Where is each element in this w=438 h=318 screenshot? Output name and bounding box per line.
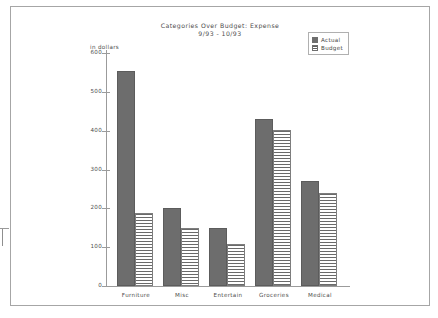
y-axis-tick-label: 300 — [90, 166, 102, 172]
y-axis-tick-mark — [102, 92, 110, 93]
y-axis-tick-mark — [102, 131, 110, 132]
x-axis-line — [106, 286, 350, 287]
bar-budget — [319, 193, 337, 286]
bar-group: Furniture — [117, 53, 155, 286]
chart-sheet: Categories Over Budget: Expense 9/93 - 1… — [10, 6, 430, 306]
legend-label-actual: Actual — [321, 37, 340, 43]
bar-actual — [163, 208, 181, 286]
y-axis-tick-mark — [102, 208, 110, 209]
chart-title-block: Categories Over Budget: Expense 9/93 - 1… — [11, 22, 429, 38]
bar-budget — [273, 130, 291, 286]
bar-group: Groceries — [255, 53, 293, 286]
chart-title: Categories Over Budget: Expense — [11, 22, 429, 30]
y-axis-tick-mark — [102, 53, 110, 54]
x-axis-tick-label: Misc — [175, 292, 189, 298]
legend-label-budget: Budget — [321, 45, 343, 51]
page-edge-mark — [0, 228, 9, 246]
y-axis-tick-label: 200 — [90, 204, 102, 210]
legend-swatch-actual-icon — [312, 37, 318, 43]
y-axis-tick-mark — [102, 247, 110, 248]
bar-group: Entertain — [209, 53, 247, 286]
bar-actual — [255, 119, 273, 286]
bar-group: Medical — [301, 53, 339, 286]
chart-legend: Actual Budget — [308, 32, 349, 55]
chart-subtitle: 9/93 - 10/93 — [11, 30, 429, 38]
bar-budget — [227, 244, 245, 286]
x-axis-tick-label: Entertain — [214, 292, 243, 298]
bar-group-bars — [163, 53, 199, 286]
bar-group-bars — [301, 53, 337, 286]
x-axis-tick-label: Groceries — [259, 292, 289, 298]
bar-actual — [209, 228, 227, 286]
y-axis-tick-label: 400 — [90, 127, 102, 133]
legend-item-actual: Actual — [312, 36, 343, 43]
bar-budget — [181, 228, 199, 286]
x-axis-tick-label: Medical — [308, 292, 332, 298]
x-axis-tick-label: Furniture — [122, 292, 150, 298]
bar-group: Misc — [163, 53, 201, 286]
y-axis-tick-label: 0 — [98, 282, 102, 288]
y-axis-line — [106, 50, 107, 286]
legend-item-budget: Budget — [312, 44, 343, 51]
screenshot-page: Categories Over Budget: Expense 9/93 - 1… — [0, 0, 438, 318]
bar-actual — [301, 181, 319, 286]
y-axis-tick-label: 100 — [90, 243, 102, 249]
y-axis-tick-mark — [102, 170, 110, 171]
plot-area: 0100200300400500600 FurnitureMiscEnterta… — [106, 53, 406, 286]
bar-budget — [135, 213, 153, 286]
bar-group-bars — [209, 53, 245, 286]
y-axis-tick-label: 600 — [90, 49, 102, 55]
bar-group-bars — [117, 53, 153, 286]
bar-actual — [117, 71, 135, 286]
bar-group-bars — [255, 53, 291, 286]
legend-swatch-budget-icon — [312, 45, 318, 51]
y-axis-tick-mark — [102, 286, 110, 287]
y-axis-tick-label: 500 — [90, 88, 102, 94]
